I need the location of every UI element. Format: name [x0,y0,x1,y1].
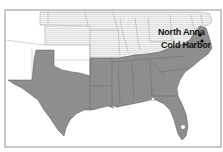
map-canvas [0,0,223,152]
lake-icon [181,125,185,129]
north-anna-label: North Anna [158,27,205,37]
lake-icon [152,98,155,101]
cold-harbor-label: Cold Harbor [161,40,211,50]
